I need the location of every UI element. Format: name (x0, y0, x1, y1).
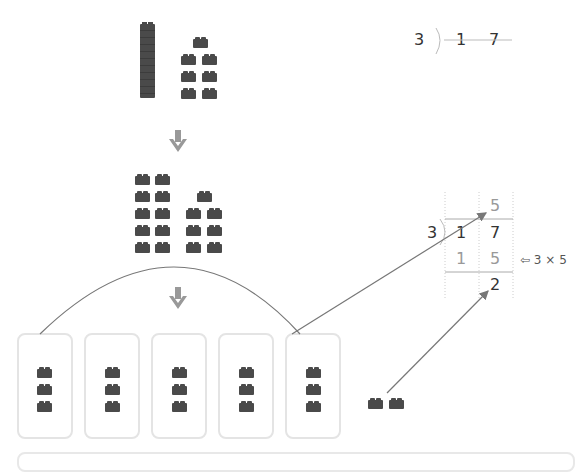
bottom-panel (17, 452, 575, 472)
down-arrow-icon (169, 130, 187, 152)
down-arrow-icon (169, 287, 187, 309)
